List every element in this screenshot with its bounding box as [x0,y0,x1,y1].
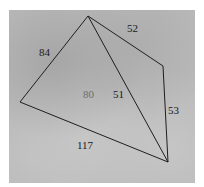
edge-bottom-left [20,102,168,162]
label-region-left: 80 [83,89,94,100]
edge-left-top [20,16,88,102]
quadrilateral-diagram [0,0,204,187]
edge-top-right [88,16,163,66]
label-edge-top-right: 52 [127,23,138,34]
label-diagonal: 51 [113,89,124,100]
label-edge-left-top: 84 [39,47,50,58]
diagonal-top-bottom [88,16,168,162]
label-edge-bottom-left: 117 [77,140,93,151]
label-edge-right-bottom: 53 [168,105,179,116]
